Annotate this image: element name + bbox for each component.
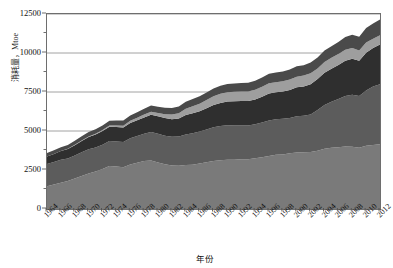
- x-axis-title: 年份: [0, 252, 393, 264]
- x-tick-label: 2012: [375, 202, 393, 220]
- chart-root: 消耗量，Mtoe 02500500075001000012500 1964196…: [0, 0, 393, 268]
- x-axis-tick-labels: 1964196619681970197219741976197819801982…: [0, 0, 393, 268]
- x-axis-title-text: 年份: [196, 254, 214, 264]
